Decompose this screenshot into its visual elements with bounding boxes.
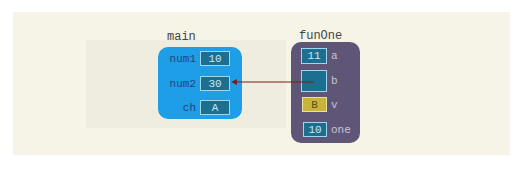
reference-arrow <box>0 0 521 169</box>
